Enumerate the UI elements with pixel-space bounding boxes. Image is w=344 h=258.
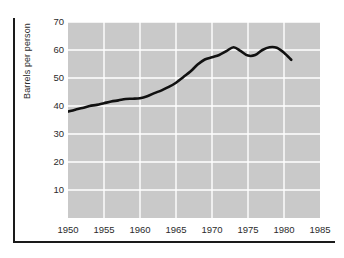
x-tick-label: 1950 xyxy=(48,224,88,235)
y-tick-label: 10 xyxy=(38,185,64,195)
y-tick-label: 70 xyxy=(38,17,64,27)
chart-figure: Barrels per person 70 60 50 40 30 20 10 … xyxy=(0,0,344,258)
y-axis-title: Barrels per person xyxy=(22,1,32,121)
x-tick-label: 1980 xyxy=(264,224,304,235)
y-axis-tick-labels: 70 60 50 40 30 20 10 xyxy=(36,0,64,258)
x-tick-label: 1965 xyxy=(156,224,196,235)
data-series-line xyxy=(68,47,291,112)
horizontal-gridlines xyxy=(68,22,320,190)
plot-area xyxy=(68,22,320,218)
x-tick-label: 1960 xyxy=(120,224,160,235)
y-tick-label: 60 xyxy=(38,45,64,55)
figure-left-rule xyxy=(13,18,15,243)
x-axis-tick-labels: 1950 1955 1960 1965 1970 1975 1980 1985 xyxy=(0,224,344,238)
y-tick-label: 20 xyxy=(38,157,64,167)
y-tick-label: 40 xyxy=(38,101,64,111)
vertical-gridlines xyxy=(104,22,284,218)
y-tick-label: 30 xyxy=(38,129,64,139)
x-tick-label: 1985 xyxy=(300,224,340,235)
y-tick-label: 50 xyxy=(38,73,64,83)
chart-canvas xyxy=(68,22,320,218)
x-tick-label: 1955 xyxy=(84,224,124,235)
x-tick-label: 1975 xyxy=(228,224,268,235)
x-tick-label: 1970 xyxy=(192,224,232,235)
